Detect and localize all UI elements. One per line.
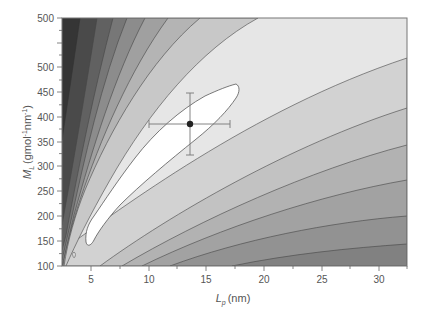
y-tick-label: 100 — [37, 261, 54, 272]
contour-chart: 100 150 200 250 300 350 400 450 500 500 … — [0, 0, 427, 320]
y-tick-label: 500 — [37, 13, 54, 24]
x-tick-label: 10 — [143, 274, 155, 285]
contour-small-loop — [73, 252, 76, 257]
x-tick-labels: 5 10 15 20 25 30 — [88, 274, 385, 285]
x-tick-label: 20 — [258, 274, 270, 285]
y-tick-label: 500 — [37, 62, 54, 73]
contour-plot-area — [62, 18, 407, 266]
y-tick-label: 450 — [37, 87, 54, 98]
y-axis-title: ML(gmol-1nm-1) — [21, 105, 35, 179]
x-axis — [91, 266, 407, 271]
data-point — [187, 121, 193, 127]
x-axis-title: Lp(nm) — [216, 292, 251, 307]
y-tick-label: 300 — [37, 161, 54, 172]
y-tick-label: 200 — [37, 211, 54, 222]
x-tick-label: 25 — [316, 274, 328, 285]
x-tick-label: 30 — [373, 274, 385, 285]
y-tick-labels: 100 150 200 250 300 350 400 450 500 500 — [37, 13, 54, 272]
y-tick-label: 400 — [37, 112, 54, 123]
y-tick-label: 350 — [37, 137, 54, 148]
x-tick-label: 5 — [88, 274, 94, 285]
x-tick-label: 15 — [200, 274, 212, 285]
y-tick-label: 250 — [37, 186, 54, 197]
y-axis — [57, 18, 62, 266]
y-tick-label: 150 — [37, 236, 54, 247]
